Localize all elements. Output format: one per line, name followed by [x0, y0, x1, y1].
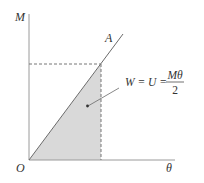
x-axis-label: θ	[166, 161, 172, 175]
equation-lhs: W = U =	[125, 76, 167, 88]
equation-denominator: 2	[172, 84, 178, 96]
origin-label: O	[16, 161, 25, 175]
line-label-A: A	[104, 31, 113, 45]
equation-numerator: Mθ	[166, 69, 183, 81]
leader-dot-icon	[86, 105, 89, 108]
diagram-svg: M O θ A W = U = Mθ 2	[0, 0, 204, 183]
moment-rotation-diagram: M O θ A W = U = Mθ 2	[0, 0, 204, 183]
y-axis-label: M	[14, 10, 26, 24]
